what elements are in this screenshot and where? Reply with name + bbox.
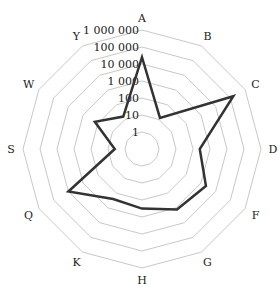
tick-label: 10 [125,109,139,122]
grid-ring [23,30,261,268]
radial-axis-tick-labels: 1101001 00010 000100 0001 000 000 [83,24,139,139]
category-label-h: H [137,274,147,287]
category-label-k: K [72,256,81,269]
category-labels: ABCDFGHKQSWY [7,12,277,287]
category-label-b: B [203,30,211,43]
radar-chart: 1101001 00010 000100 0001 000 000 ABCDFG… [0,0,280,296]
category-label-g: G [203,256,212,269]
category-label-s: S [7,143,15,156]
category-label-q: Q [24,209,33,222]
tick-label: 1 000 000 [83,24,139,37]
grid-ring [40,47,244,251]
tick-label: 1 [132,126,139,139]
tick-label: 100 000 [94,41,140,54]
category-label-a: A [137,12,147,25]
data-series [68,57,233,209]
category-label-c: C [251,78,259,91]
grid-ring [108,115,176,183]
category-label-d: D [269,143,278,156]
radar-grid [23,30,261,268]
category-label-f: F [252,209,260,222]
category-label-y: Y [72,30,81,43]
series-line [68,57,233,209]
tick-label: 10 000 [101,58,140,71]
grid-ring [125,132,159,166]
category-label-w: W [23,78,35,91]
